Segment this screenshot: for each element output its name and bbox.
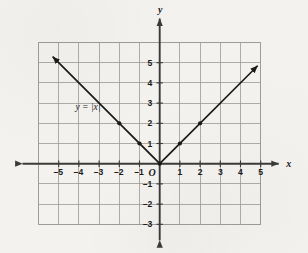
- x-axis-label: x: [285, 158, 291, 169]
- y-tick-label: 1: [147, 139, 152, 149]
- plot-point: [198, 121, 202, 125]
- x-tick-label: 3: [218, 167, 223, 177]
- graph-figure: –5–4–3–2–11234554321–1–2–3 Oxyy = |x|: [0, 0, 308, 253]
- x-tick-label: 5: [258, 167, 263, 177]
- y-tick-label: 3: [147, 98, 152, 108]
- x-tick-label: 1: [178, 167, 183, 177]
- y-tick-label: 5: [147, 58, 152, 68]
- x-tick-label: –3: [94, 167, 104, 177]
- plot-point: [158, 162, 162, 166]
- x-tick-label: 4: [238, 167, 243, 177]
- y-tick-label: –2: [143, 199, 153, 209]
- curve-right-branch: [160, 66, 258, 164]
- x-tick-label: –4: [74, 167, 84, 177]
- plot-point: [178, 141, 182, 145]
- x-tick-label: 2: [198, 167, 203, 177]
- plot-point: [117, 121, 121, 125]
- grid-lines: [39, 43, 261, 225]
- x-tick-label: –2: [114, 167, 124, 177]
- equation-label: y = |x|: [74, 101, 100, 112]
- origin-label: O: [149, 167, 156, 178]
- x-tick-label: –5: [53, 167, 63, 177]
- y-axis-label: y: [157, 4, 163, 15]
- grid-border: [39, 43, 261, 225]
- x-tick-label: –1: [134, 167, 144, 177]
- y-tick-label: 2: [147, 118, 152, 128]
- coordinate-plane-svg: –5–4–3–2–11234554321–1–2–3 Oxyy = |x|: [0, 0, 308, 253]
- curve-left-branch: [53, 57, 160, 164]
- y-tick-label: –1: [143, 179, 153, 189]
- plot-point: [137, 141, 141, 145]
- axis-name-labels: Oxyy = |x|: [74, 4, 291, 178]
- y-tick-label: –3: [143, 219, 153, 229]
- y-tick-label: 4: [147, 78, 152, 88]
